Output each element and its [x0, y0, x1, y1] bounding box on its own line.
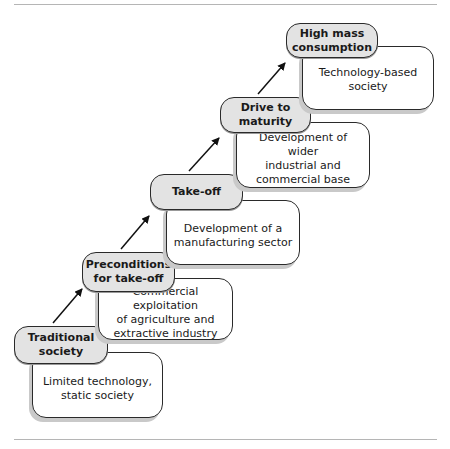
arrow-1-icon: [53, 289, 82, 323]
arrow-2-icon: [121, 216, 149, 249]
arrow-4-icon: [258, 63, 285, 94]
arrows: [0, 0, 450, 449]
arrow-3-icon: [189, 138, 219, 171]
